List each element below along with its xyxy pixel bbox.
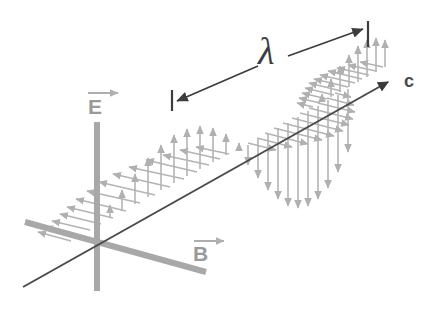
wavelength-label: λ	[258, 32, 274, 70]
wavelength-arrow-right	[288, 29, 363, 56]
em-wave-figure: E B c λ	[0, 0, 429, 310]
field-half-cycle-2	[248, 89, 355, 208]
e-field-label: E	[88, 96, 102, 117]
b-field-label: B	[193, 243, 208, 264]
b-field-axis	[25, 222, 206, 272]
em-wave-diagram-canvas	[0, 0, 429, 310]
propagation-speed-label: c	[404, 72, 414, 90]
wavelength-arrow-left	[177, 66, 258, 101]
vector-hat-arrows	[88, 93, 224, 241]
